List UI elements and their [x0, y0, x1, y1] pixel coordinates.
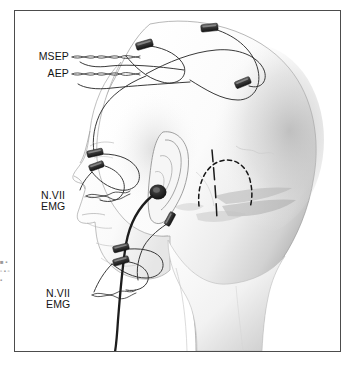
label-aep: AEP	[12, 68, 69, 79]
label-nvii-emg-lower: N.VII EMG	[46, 288, 106, 311]
label-nvii-emg-upper: N.VII EMG	[41, 190, 101, 213]
electrode-scalp-vertex-posterior	[201, 23, 219, 32]
label-msep: MSEP	[12, 51, 69, 62]
figure-container: ■ ▪ ▫ ▪ ▫ ▪	[0, 0, 352, 365]
